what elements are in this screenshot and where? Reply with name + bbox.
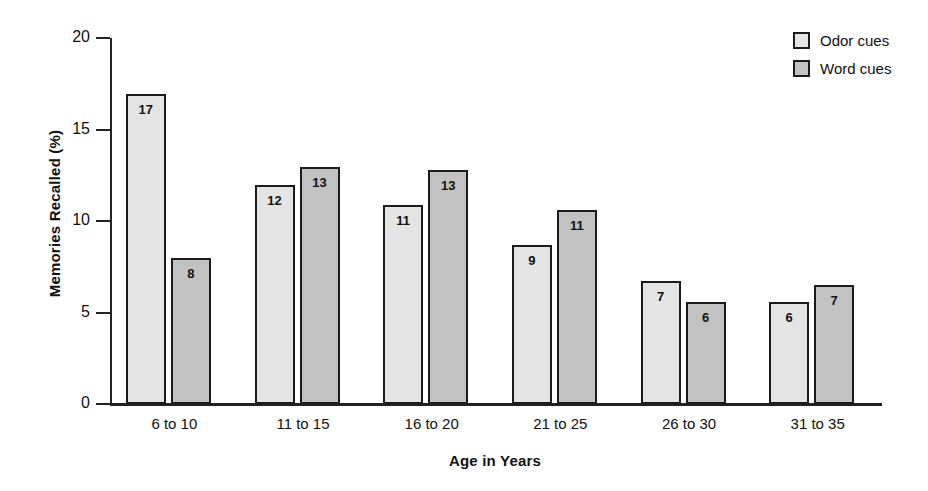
- bar: 11: [557, 210, 597, 404]
- legend-swatch-icon: [793, 32, 810, 49]
- bar: 7: [641, 281, 681, 404]
- bar: 12: [255, 185, 295, 404]
- bar-value-label: 6: [771, 311, 807, 324]
- legend-label: Odor cues: [820, 32, 889, 49]
- bar: 11: [383, 205, 423, 404]
- bar-value-label: 17: [128, 103, 164, 116]
- bar-value-label: 13: [302, 176, 338, 189]
- y-axis-tick-label: 5: [46, 304, 90, 320]
- y-axis-tick-label: 15: [46, 121, 90, 137]
- legend-label: Word cues: [820, 60, 891, 77]
- bar-value-label: 7: [816, 294, 852, 307]
- y-axis-tick-label: 10: [46, 212, 90, 228]
- bar-value-label: 9: [514, 254, 550, 267]
- bar: 8: [171, 258, 211, 404]
- x-axis-tick-label: 31 to 35: [753, 415, 882, 432]
- bar: 7: [814, 285, 854, 404]
- bar-value-label: 6: [688, 311, 724, 324]
- x-axis-tick-label: 16 to 20: [367, 415, 496, 432]
- y-axis-tick-label: 0: [46, 395, 90, 411]
- y-axis-tick: [96, 37, 110, 39]
- y-axis-tick: [96, 403, 110, 405]
- legend-item: Odor cues: [793, 28, 891, 53]
- bar-value-label: 13: [430, 179, 466, 192]
- y-axis-tick: [96, 220, 110, 222]
- bar-chart: Memories Recalled (%) 05101520 178121311…: [0, 0, 928, 491]
- bar-value-label: 7: [643, 290, 679, 303]
- x-axis-tick-label: 6 to 10: [110, 415, 239, 432]
- bar: 6: [769, 302, 809, 404]
- bar: 13: [300, 167, 340, 404]
- bar: 9: [512, 245, 552, 404]
- x-axis-tick-label: 26 to 30: [625, 415, 754, 432]
- x-axis-title: Age in Years: [110, 452, 880, 469]
- x-axis-tick-label: 11 to 15: [239, 415, 368, 432]
- bar-value-label: 11: [559, 219, 595, 232]
- x-axis-tick-label: 21 to 25: [496, 415, 625, 432]
- bar: 6: [686, 302, 726, 404]
- y-axis-tick: [96, 129, 110, 131]
- legend-swatch-icon: [793, 60, 810, 77]
- chart-legend: Odor cuesWord cues: [793, 28, 891, 84]
- legend-item: Word cues: [793, 56, 891, 81]
- y-axis-tick-label: 20: [46, 29, 90, 45]
- plot-area: 178121311139117667: [110, 38, 882, 404]
- bar: 17: [126, 94, 166, 404]
- bar-value-label: 12: [257, 194, 293, 207]
- bar-value-label: 11: [385, 214, 421, 227]
- bar-value-label: 8: [173, 267, 209, 280]
- bar: 13: [428, 170, 468, 404]
- y-axis-tick: [96, 312, 110, 314]
